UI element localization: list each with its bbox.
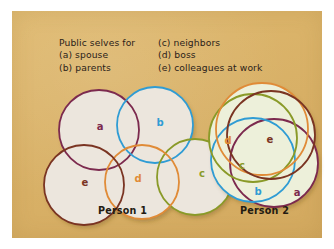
legend-item-c: (c) neighbors [158, 37, 262, 49]
venn-label-b: b [156, 117, 163, 128]
legend-item-d: (d) boss [158, 49, 262, 61]
legend-item-a: (a) spouse [59, 49, 135, 61]
legend-item-e: (e) colleagues at work [158, 62, 262, 74]
venn-label-e: e [267, 134, 274, 145]
caption-person-2: Person 2 [240, 205, 289, 216]
legend-item-b: (b) parents [59, 62, 135, 74]
venn-label-d: d [134, 173, 141, 184]
venn-label-b: b [254, 186, 261, 197]
venn-label-d: d [224, 135, 231, 146]
venn-label-c: c [239, 160, 245, 171]
legend-column-right: (c) neighbors (d) boss (e) colleagues at… [158, 37, 262, 74]
venn-label-a: a [97, 121, 104, 132]
venn-label-a: a [294, 187, 301, 198]
figure-panel: Public selves for (a) spouse (b) parents… [12, 11, 322, 238]
legend-item-heading: Public selves for [59, 37, 135, 49]
figure-container: Public selves for (a) spouse (b) parents… [0, 0, 334, 249]
legend-column-left: Public selves for (a) spouse (b) parents [59, 37, 135, 74]
caption-person-1: Person 1 [98, 205, 147, 216]
venn-label-e: e [82, 177, 89, 188]
